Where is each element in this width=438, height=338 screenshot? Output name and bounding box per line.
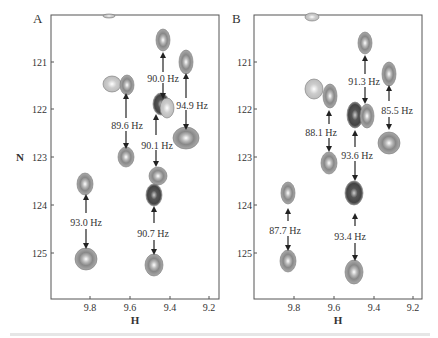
peak: [280, 250, 296, 272]
coupling-label: 89.6 Hz: [111, 120, 143, 131]
peak: [382, 62, 396, 86]
nmr-figure: A 121 122 123 124 125 N 9.8 9.6 9.4 9.2: [0, 0, 438, 338]
panel-a: A 121 122 123 124 125 N 9.8 9.6 9.4 9.2: [16, 11, 219, 326]
y-tick: 124: [32, 200, 47, 211]
peak: [149, 167, 167, 185]
y-axis-label: N: [16, 151, 24, 163]
y-tick: 121: [32, 57, 47, 68]
coupling-label: 93.4 Hz: [334, 231, 366, 242]
coupling-label: 93.6 Hz: [341, 150, 373, 161]
peak: [321, 152, 337, 174]
x-axis-label: H: [334, 314, 343, 326]
panel-b: B 121 122 123 124 125 9.8 9.6 9.4 9.2 H: [232, 11, 422, 326]
y-tick: 122: [237, 104, 252, 115]
y-tick: 121: [237, 57, 252, 68]
peak: [173, 127, 199, 149]
x-tick: 9.8: [84, 302, 97, 313]
coupling-label: 90.1 Hz: [141, 140, 173, 151]
panel-b-frame: [254, 15, 422, 299]
caption-remnant: [10, 333, 430, 336]
y-tick: 125: [237, 248, 252, 259]
coupling-label: 90.7 Hz: [137, 228, 169, 239]
x-tick: 9.2: [203, 302, 216, 313]
peak: [77, 173, 93, 195]
coupling-label: 91.3 Hz: [348, 76, 380, 87]
panel-b-label: B: [232, 11, 241, 26]
x-tick: 9.4: [164, 302, 177, 313]
panel-a-hz-labels: 90.0 Hz 94.9 Hz 89.6 Hz 90.1 Hz 93.0 Hz …: [70, 73, 208, 239]
panel-b-hz-labels: 91.3 Hz 85.5 Hz 88.1 Hz 93.6 Hz 87.7 Hz …: [269, 76, 413, 242]
y-tick: 125: [32, 248, 47, 259]
peak: [145, 254, 163, 276]
peak: [156, 29, 170, 51]
peak: [281, 182, 295, 204]
peak: [120, 75, 134, 95]
coupling-label: 87.7 Hz: [269, 225, 301, 236]
y-tick: 123: [32, 152, 47, 163]
coupling-label: 85.5 Hz: [381, 105, 413, 116]
peak: [360, 104, 374, 128]
x-tick: 9.6: [124, 302, 137, 313]
peak: [103, 14, 115, 18]
panel-b-peaks: [280, 13, 400, 284]
y-tick: 123: [237, 152, 252, 163]
peak: [345, 181, 363, 205]
peak: [146, 184, 162, 206]
y-tick: 124: [237, 200, 252, 211]
peak: [378, 132, 400, 154]
x-tick: 9.2: [407, 302, 420, 313]
panel-a-label: A: [33, 11, 43, 26]
peak: [75, 248, 97, 270]
peak: [305, 79, 323, 99]
y-tick: 122: [32, 104, 47, 115]
coupling-label: 90.0 Hz: [147, 73, 179, 84]
peak: [345, 260, 363, 284]
peak: [179, 50, 193, 74]
peak: [358, 32, 372, 54]
coupling-label: 94.9 Hz: [176, 100, 208, 111]
peak: [118, 147, 134, 167]
peak: [323, 84, 337, 108]
x-axis-label: H: [131, 314, 140, 326]
peak: [305, 13, 319, 21]
coupling-label: 88.1 Hz: [305, 127, 337, 138]
x-tick: 9.8: [288, 302, 301, 313]
peak: [103, 76, 121, 92]
coupling-label: 93.0 Hz: [70, 217, 102, 228]
x-tick: 9.6: [328, 302, 341, 313]
peak: [160, 98, 174, 118]
panel-b-couplings: [288, 58, 389, 258]
x-tick: 9.4: [368, 302, 381, 313]
